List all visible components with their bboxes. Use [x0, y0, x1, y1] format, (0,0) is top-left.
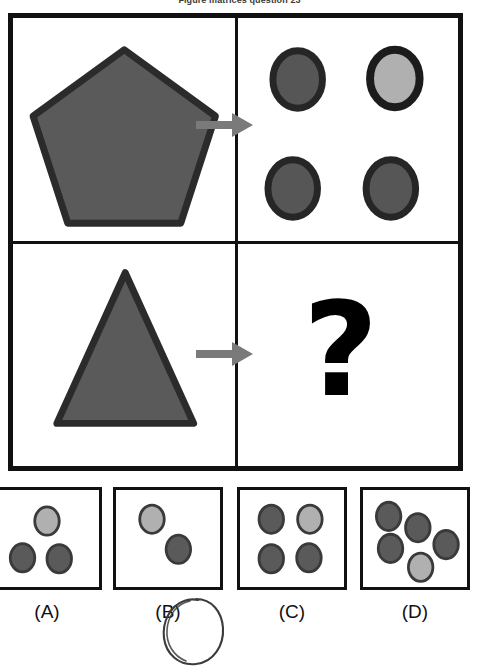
answer-option-c-label: (C): [237, 601, 347, 623]
answer-option-b[interactable]: (B): [113, 487, 223, 623]
question-mark-glyph: ?: [303, 285, 378, 415]
answer-option-d-label: (D): [360, 601, 470, 623]
circle-top-left: [272, 51, 322, 108]
circle-dark: [259, 505, 283, 533]
circle-bottom-right: [366, 160, 416, 217]
option-b-circles: [116, 490, 220, 587]
answer-option-a-box[interactable]: [0, 487, 102, 590]
question-mark-placeholder: ?: [236, 242, 459, 466]
circle-dark: [376, 502, 400, 530]
option-c-circles: [240, 490, 344, 587]
circle-light: [298, 505, 322, 533]
circle-dark: [47, 545, 71, 573]
answer-options: (A) (B) (C): [0, 487, 479, 657]
answer-option-c[interactable]: (C): [237, 487, 347, 623]
answer-option-a-label: (A): [0, 601, 102, 623]
circle-dark: [259, 545, 283, 573]
matrix-cell-bottom-right: ?: [236, 242, 459, 466]
option-a-circles: [0, 490, 99, 587]
circle-dark: [297, 544, 321, 572]
circle-dark: [434, 530, 458, 558]
answer-option-d[interactable]: (D): [360, 487, 470, 623]
figure-matrix: ?: [8, 13, 463, 471]
option-d-circles: [363, 490, 467, 587]
answer-option-d-box[interactable]: [360, 487, 470, 590]
page-title: Figure matrices question 23: [0, 0, 479, 5]
circle-light: [140, 505, 164, 533]
circle-group-four: [236, 18, 459, 242]
circle-bottom-left: [267, 160, 317, 217]
arrow-bottom-row-icon: [196, 341, 254, 367]
matrix-cell-top-right: [236, 18, 459, 242]
answer-option-b-label: (B): [113, 601, 223, 623]
circle-dark: [10, 544, 34, 572]
circle-light: [408, 553, 432, 581]
arrow-top-row-icon: [196, 112, 254, 138]
circle-dark: [378, 534, 402, 562]
circle-dark: [406, 514, 430, 542]
circle-top-right: [370, 50, 420, 107]
circle-dark: [166, 535, 190, 563]
circle-light: [35, 507, 59, 535]
answer-option-c-box[interactable]: [237, 487, 347, 590]
answer-option-b-box[interactable]: [113, 487, 223, 590]
answer-option-a[interactable]: (A): [0, 487, 102, 623]
